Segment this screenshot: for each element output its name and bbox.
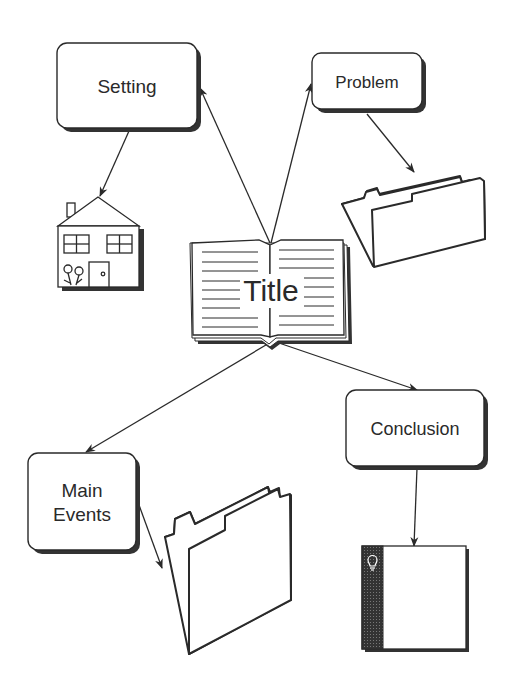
story-map-diagram: Setting Problem Main Events Conclusion bbox=[0, 0, 514, 696]
edge-setting-house bbox=[100, 131, 129, 196]
edge-title-main-events bbox=[86, 342, 271, 452]
edge-title-problem bbox=[271, 84, 311, 243]
edge-problem-folder bbox=[367, 114, 414, 172]
folder-icon-problem bbox=[342, 176, 485, 267]
center-title-label: Title bbox=[243, 274, 299, 307]
house-icon bbox=[58, 197, 144, 291]
node-problem[interactable]: Problem bbox=[312, 53, 426, 113]
edge-title-setting bbox=[200, 88, 270, 243]
folder-icon-main-events bbox=[165, 487, 291, 654]
node-setting[interactable]: Setting bbox=[57, 43, 201, 132]
node-main-events-label-line1: Main bbox=[61, 480, 102, 501]
node-setting-label: Setting bbox=[97, 76, 156, 97]
edge-conclusion-book bbox=[414, 468, 417, 546]
edge-main-events-folder bbox=[139, 505, 162, 568]
edge-title-conclusion bbox=[276, 342, 417, 390]
open-book-icon[interactable]: Title bbox=[190, 240, 352, 350]
node-conclusion-label: Conclusion bbox=[370, 419, 459, 439]
node-conclusion[interactable]: Conclusion bbox=[346, 390, 488, 470]
node-main-events[interactable]: Main Events bbox=[28, 453, 140, 554]
node-main-events-label-line2: Events bbox=[53, 504, 111, 525]
node-problem-label: Problem bbox=[335, 73, 398, 92]
lightbulb-book-icon bbox=[362, 546, 469, 652]
